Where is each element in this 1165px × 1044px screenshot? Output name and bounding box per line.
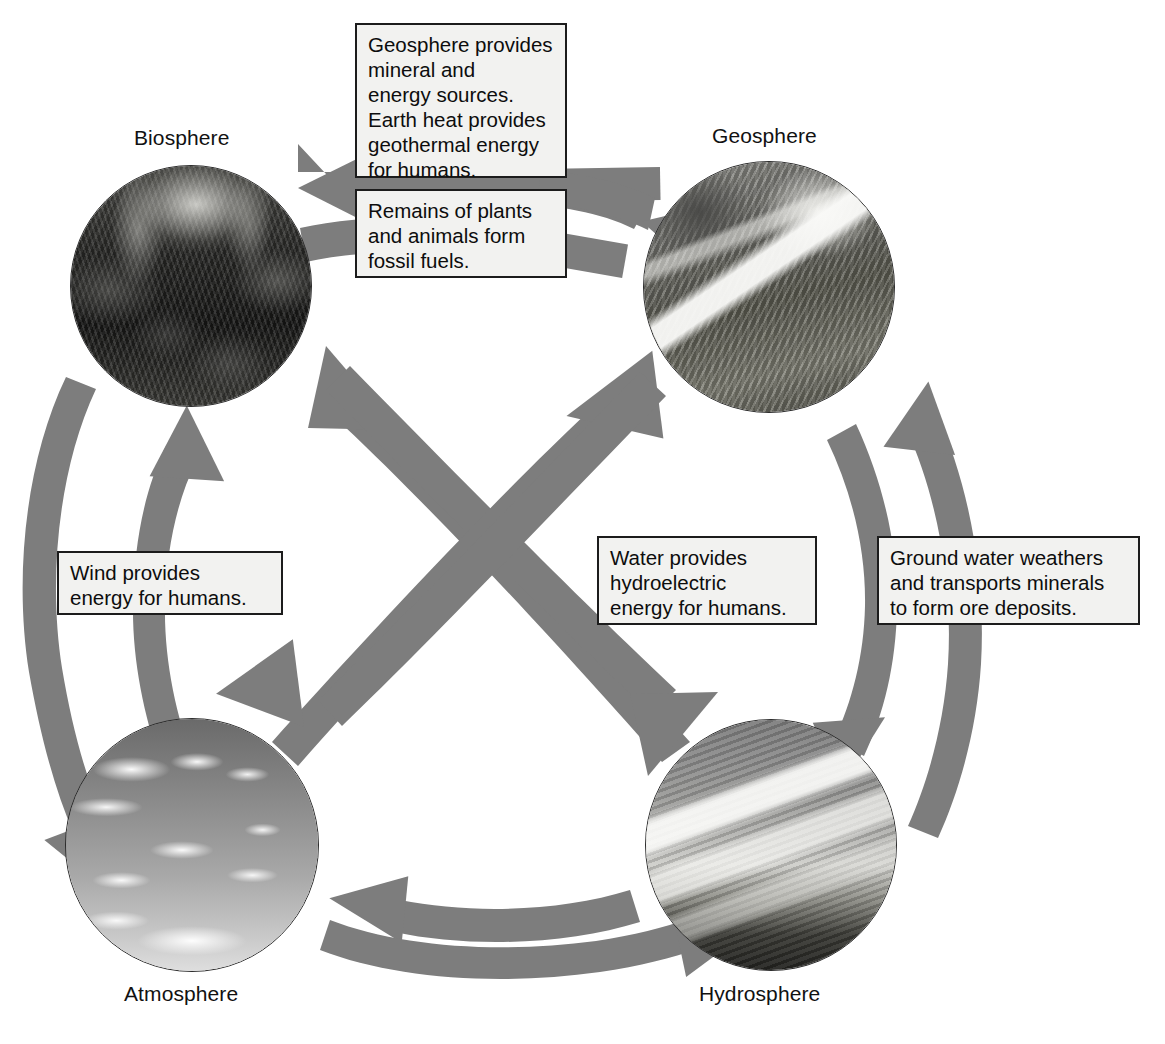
note-atmosphere-to-biosphere: Wind provides energy for humans. (57, 551, 283, 615)
sphere-hydrosphere[interactable] (645, 719, 897, 971)
hydrosphere-to-atmosphere-arrowhead (328, 876, 411, 946)
sphere-geosphere[interactable] (643, 161, 895, 413)
earth-spheres-diagram: Biosphere Geosphere Atmosphere Hydrosphe… (0, 0, 1165, 1044)
note-biosphere-to-geosphere: Remains of plants and animals form fossi… (355, 189, 567, 278)
atmosphere-to-geosphere-arrow (272, 410, 614, 766)
note-geosphere-to-biosphere: Geosphere provides mineral and energy so… (355, 23, 567, 178)
note-hydrosphere-to-geosphere: Ground water weathers and transports min… (877, 536, 1140, 625)
sphere-label-atmosphere: Atmosphere (124, 982, 238, 1006)
sphere-atmosphere[interactable] (65, 718, 319, 972)
sphere-biosphere[interactable] (70, 165, 312, 407)
note-hydrosphere-to-biosphere: Water provides hydroelectric energy for … (597, 536, 817, 625)
sphere-label-biosphere: Biosphere (134, 126, 229, 150)
hydrosphere-to-geosphere-arrow (906, 412, 982, 838)
ocean-shoreline-photo (646, 720, 896, 970)
sphere-label-geosphere: Geosphere (712, 124, 817, 148)
atmosphere-to-biosphere-arrowhead (145, 403, 224, 486)
hydrosphere-to-geosphere-arrowhead (883, 378, 961, 455)
atmosphere-to-hydrosphere-arrow (320, 918, 700, 979)
sphere-label-hydrosphere: Hydrosphere (699, 982, 820, 1006)
snowy-mountain-photo (644, 162, 894, 412)
rainforest-canopy-photo (71, 166, 311, 406)
hydrosphere-to-biosphere-arrowhead (308, 346, 398, 430)
hydrosphere-to-atmosphere-arrow (394, 890, 640, 942)
clouds-in-sky-photo (66, 719, 318, 971)
